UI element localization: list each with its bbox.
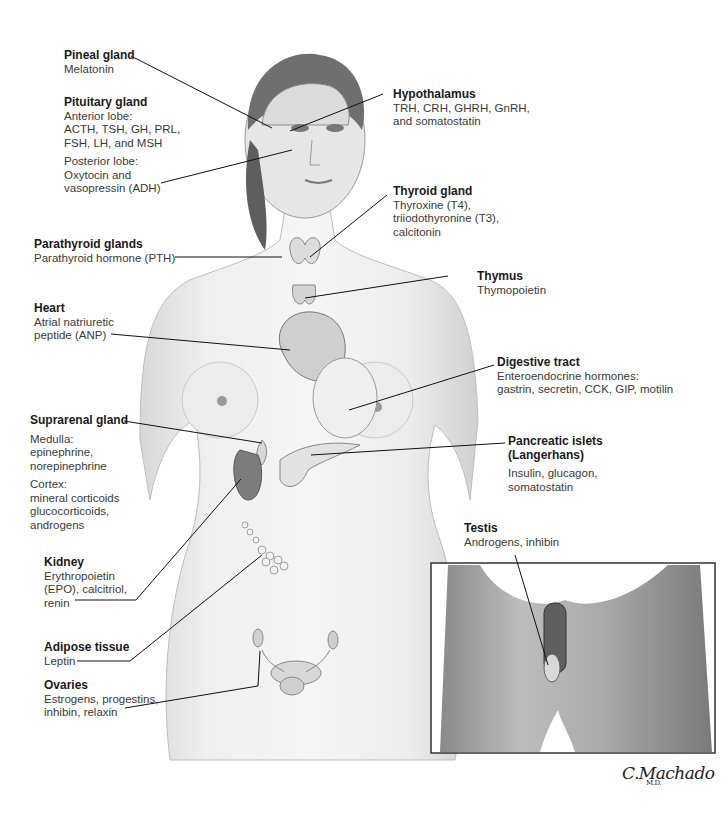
kidney-hormones: Erythropoietin (EPO), calcitriol, renin	[44, 570, 127, 611]
label-pancreatic-islets: Pancreatic islets (Langerhans) Insulin, …	[508, 435, 603, 494]
ovaries-hormones: Estrogens, progestins, inhibin, relaxin	[44, 693, 158, 720]
endocrine-figure: Pineal gland Melatonin Pituitary gland A…	[0, 0, 726, 814]
label-hypothalamus: Hypothalamus TRH, CRH, GHRH, GnRH, and s…	[393, 88, 530, 129]
adipose-hormones: Leptin	[44, 655, 129, 669]
pituitary-anterior: Anterior lobe: ACTH, TSH, GH, PRL, FSH, …	[64, 110, 180, 151]
hypothalamus-title: Hypothalamus	[393, 88, 530, 102]
pineal-hormones: Melatonin	[64, 63, 135, 77]
label-suprarenal-gland: Suprarenal gland Medulla: epinephrine, n…	[30, 414, 128, 532]
thyroid-title: Thyroid gland	[393, 185, 499, 199]
testis-inset	[431, 563, 715, 753]
label-heart: Heart Atrial natriuretic peptide (ANP)	[34, 302, 114, 343]
digestive-title: Digestive tract	[497, 356, 673, 370]
pancreas-title: Pancreatic islets (Langerhans)	[508, 435, 603, 462]
heart-title: Heart	[34, 302, 114, 316]
label-pineal-gland: Pineal gland Melatonin	[64, 49, 135, 76]
hypothalamus-hormones: TRH, CRH, GHRH, GnRH, and somatostatin	[393, 102, 530, 129]
suprarenal-cortex: Cortex: mineral corticoids glucocorticoi…	[30, 478, 128, 532]
label-kidney: Kidney Erythropoietin (EPO), calcitriol,…	[44, 556, 127, 610]
kidney-title: Kidney	[44, 556, 127, 570]
artist-signature: C.Machado M.D.	[622, 763, 715, 787]
suprarenal-medulla: Medulla: epinephrine, norepinephrine	[30, 433, 128, 474]
adipose-title: Adipose tissue	[44, 641, 129, 655]
signature-name: C.Machado	[622, 763, 715, 783]
label-digestive-tract: Digestive tract Enteroendocrine hormones…	[497, 356, 673, 397]
digestive-hormones: Enteroendocrine hormones: gastrin, secre…	[497, 370, 673, 397]
parathyroid-hormones: Parathyroid hormone (PTH)	[34, 252, 175, 266]
thymus-title: Thymus	[477, 270, 546, 284]
pituitary-posterior: Posterior lobe: Oxytocin and vasopressin…	[64, 155, 180, 196]
thymus-hormones: Thymopoietin	[477, 284, 546, 298]
label-parathyroid-glands: Parathyroid glands Parathyroid hormone (…	[34, 238, 175, 265]
pituitary-title: Pituitary gland	[64, 96, 180, 110]
pancreas-hormones: Insulin, glucagon, somatostatin	[508, 467, 603, 494]
label-thyroid-gland: Thyroid gland Thyroxine (T4), triiodothy…	[393, 185, 499, 239]
label-adipose-tissue: Adipose tissue Leptin	[44, 641, 129, 668]
suprarenal-title: Suprarenal gland	[30, 414, 128, 428]
label-ovaries: Ovaries Estrogens, progestins, inhibin, …	[44, 679, 158, 720]
label-thymus: Thymus Thymopoietin	[477, 270, 546, 297]
pineal-title: Pineal gland	[64, 49, 135, 63]
label-testis: Testis Androgens, inhibin	[464, 522, 559, 549]
testis-title: Testis	[464, 522, 559, 536]
label-pituitary-gland: Pituitary gland Anterior lobe: ACTH, TSH…	[64, 96, 180, 196]
heart-hormones: Atrial natriuretic peptide (ANP)	[34, 316, 114, 343]
female-body	[140, 54, 478, 780]
ovaries-title: Ovaries	[44, 679, 158, 693]
thyroid-hormones: Thyroxine (T4), triiodothyronine (T3), c…	[393, 199, 499, 240]
testis-hormones: Androgens, inhibin	[464, 536, 559, 550]
parathyroid-title: Parathyroid glands	[34, 238, 175, 252]
